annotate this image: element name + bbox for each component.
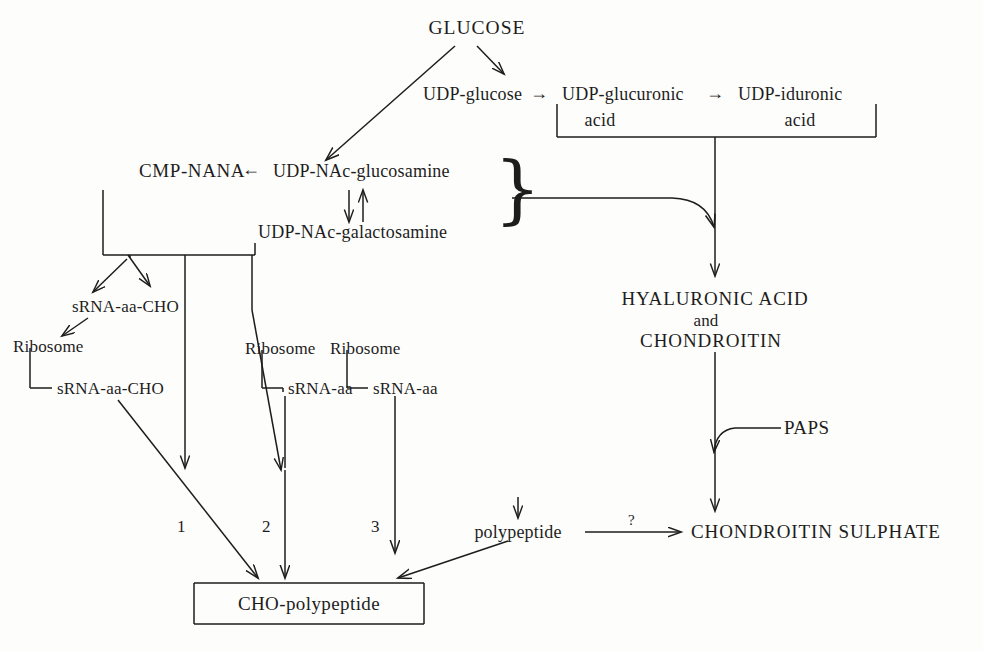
node-chondroitin-sulphate: CHONDROITIN SULPHATE — [691, 522, 941, 541]
node-ribosome-3: Ribosome — [330, 340, 401, 357]
arrow-left: ← — [242, 160, 260, 178]
annotation-question-mark: ? — [628, 513, 635, 528]
node-udp-glucose: UDP-glucose — [423, 85, 522, 103]
node-glucose: GLUCOSE — [429, 18, 526, 38]
node-cmp-nana: CMP-NANA — [139, 161, 245, 180]
pathway-number-1: 1 — [177, 518, 186, 535]
node-and: and — [693, 312, 718, 329]
node-srna-aa-cho-2: sRNA-aa-CHO — [57, 380, 164, 397]
node-ribosome-2: Ribosome — [245, 340, 316, 357]
node-cho-polypeptide: CHO-polypeptide — [238, 593, 380, 615]
node-udp-glucuronic-acid: acid — [585, 111, 616, 129]
brace-nac-group: } — [494, 152, 541, 226]
node-udp-nac-galactosamine: UDP-NAc-galactosamine — [258, 223, 447, 241]
node-ribosome-1: Ribosome — [13, 338, 84, 355]
node-srna-aa-cho-1: sRNA-aa-CHO — [72, 298, 179, 315]
node-srna-aa-3: sRNA-aa — [373, 380, 438, 397]
pathway-number-3: 3 — [371, 518, 380, 535]
node-udp-iduronic: UDP-iduronic — [738, 85, 842, 103]
node-udp-iduronic-acid: acid — [785, 111, 816, 129]
node-chondroitin: CHONDROITIN — [640, 331, 782, 350]
node-udp-nac-glucosamine: UDP-NAc-glucosamine — [273, 162, 450, 180]
node-udp-glucuronic: UDP-glucuronic — [562, 85, 684, 103]
arrow-right-2: → — [706, 84, 724, 102]
pathway-number-2: 2 — [262, 518, 271, 535]
node-hyaluronic-acid: HYALURONIC ACID — [621, 289, 808, 308]
node-srna-aa-2: sRNA-aa — [288, 380, 353, 397]
pathway-diagram-canvas: GLUCOSE UDP-glucose → UDP-glucuronic aci… — [0, 0, 983, 652]
node-paps: PAPS — [784, 418, 830, 437]
node-polypeptide: polypeptide — [474, 523, 561, 541]
arrow-right-1: → — [530, 84, 548, 102]
